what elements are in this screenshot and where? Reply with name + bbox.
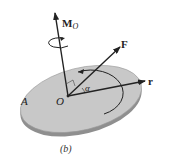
angle-label: α [85,83,90,93]
moment-label: MO [62,17,78,31]
origin-label: O [56,95,64,107]
diagram-canvas: MO F r O A α (b) [0,0,173,157]
moment-diagram: MO F r O A α (b) [0,0,173,157]
origin-point [67,95,70,98]
disk [13,54,148,148]
area-label: A [20,95,28,107]
force-label: F [121,38,128,50]
figure-caption: (b) [60,143,72,155]
position-label: r [148,75,153,87]
